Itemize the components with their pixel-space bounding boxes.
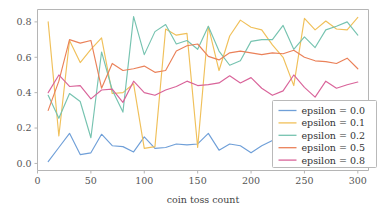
legend-label-2[interactable]: epsilon = 0.2 — [302, 130, 366, 141]
legend-label-1[interactable]: epsilon = 0.1 — [302, 117, 366, 128]
y-tick-label: 0.8 — [16, 16, 31, 27]
y-tick-label: 0.2 — [16, 122, 31, 133]
x-tick-label: 0 — [34, 175, 40, 186]
y-tick-label: 0.0 — [16, 158, 31, 169]
legend-label-4[interactable]: epsilon = 0.8 — [302, 155, 366, 166]
x-axis-title: coin toss count — [167, 194, 240, 205]
x-tick-label: 100 — [135, 175, 153, 186]
x-tick-label: 250 — [295, 175, 313, 186]
y-tick-label: 0.4 — [16, 87, 31, 98]
x-tick-label: 150 — [189, 175, 207, 186]
legend-label-3[interactable]: epsilon = 0.5 — [302, 142, 366, 153]
legend-label-0[interactable]: epsilon = 0.0 — [302, 105, 366, 116]
x-tick-label: 50 — [85, 175, 97, 186]
x-tick-label: 200 — [242, 175, 260, 186]
x-tick-label: 300 — [349, 175, 367, 186]
chart-legend[interactable]: epsilon = 0.0epsilon = 0.1epsilon = 0.2e… — [273, 101, 377, 168]
chart-figure: 0501001502002503000.00.20.40.60.8 coin t… — [0, 0, 380, 211]
y-tick-label: 0.6 — [16, 52, 31, 63]
line-chart: 0501001502002503000.00.20.40.60.8 coin t… — [0, 0, 380, 211]
series-line-3 — [48, 40, 358, 111]
